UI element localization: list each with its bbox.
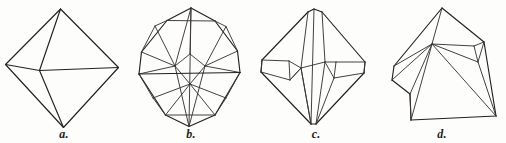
- edge: [316, 62, 325, 124]
- edge: [442, 8, 484, 42]
- edge: [139, 74, 153, 98]
- edge: [410, 44, 432, 94]
- edge: [61, 9, 119, 68]
- edge: [175, 54, 190, 66]
- edge: [153, 98, 166, 115]
- edge: [6, 9, 61, 65]
- edge: [432, 44, 474, 46]
- edge: [262, 60, 289, 61]
- crystal-figure-a: a.: [0, 0, 128, 143]
- edge: [205, 51, 238, 66]
- edge: [40, 71, 64, 128]
- figure-label-b: b.: [126, 127, 256, 141]
- edge: [308, 9, 314, 12]
- edge: [474, 46, 478, 62]
- edge: [478, 42, 484, 62]
- edge: [314, 9, 322, 12]
- edge: [364, 62, 365, 73]
- edge-group-d: [392, 8, 496, 120]
- edge: [189, 115, 215, 127]
- edge: [190, 8, 191, 54]
- edge: [301, 12, 308, 68]
- edge: [478, 62, 496, 116]
- edge: [175, 8, 191, 66]
- edge: [142, 21, 168, 53]
- figure-label-a: a.: [0, 127, 128, 141]
- edge: [322, 12, 325, 62]
- edge: [289, 61, 290, 80]
- edge: [311, 9, 314, 124]
- edge: [322, 12, 365, 62]
- edge: [142, 26, 156, 52]
- edge: [261, 60, 262, 72]
- edge: [167, 8, 191, 21]
- crystal-forms-plate: a. b. c. d.: [0, 0, 506, 143]
- edge: [432, 44, 478, 62]
- edge: [215, 21, 238, 51]
- edge-group-a: [6, 9, 119, 128]
- edge: [411, 116, 496, 120]
- edge: [392, 80, 410, 94]
- edge: [334, 62, 336, 78]
- edge: [142, 52, 176, 66]
- crystal-drawing-d: [378, 0, 506, 143]
- edge: [290, 68, 301, 80]
- edge: [139, 52, 142, 74]
- edge: [6, 65, 64, 128]
- edge: [139, 66, 175, 74]
- crystal-figure-d: d.: [378, 0, 506, 143]
- edge: [64, 68, 119, 128]
- edge: [191, 8, 215, 21]
- edge: [205, 27, 226, 67]
- edge: [238, 51, 241, 73]
- edge-group-b: [139, 8, 240, 127]
- edge: [139, 73, 240, 75]
- edge: [262, 12, 308, 60]
- edge: [226, 73, 240, 99]
- edge: [325, 62, 334, 78]
- edge-group-c: [261, 9, 365, 124]
- edge: [155, 26, 175, 66]
- edge: [215, 98, 226, 115]
- crystal-drawing-b: [126, 0, 256, 143]
- crystal-figure-c: c.: [252, 0, 380, 143]
- edge: [205, 66, 240, 73]
- figure-label-d: d.: [378, 127, 506, 141]
- edge: [166, 115, 190, 127]
- edge: [411, 44, 432, 120]
- figure-label-c: c.: [252, 127, 380, 141]
- crystal-figure-b: b.: [126, 0, 256, 143]
- edge: [40, 68, 119, 71]
- edge: [40, 9, 61, 71]
- edge: [316, 73, 364, 124]
- crystal-drawing-a: [0, 0, 128, 143]
- edge: [394, 44, 432, 66]
- edge: [316, 78, 334, 124]
- edge: [190, 54, 205, 66]
- crystal-drawing-c: [252, 0, 380, 143]
- edge: [410, 94, 411, 120]
- edge: [289, 61, 301, 68]
- edge: [394, 8, 442, 66]
